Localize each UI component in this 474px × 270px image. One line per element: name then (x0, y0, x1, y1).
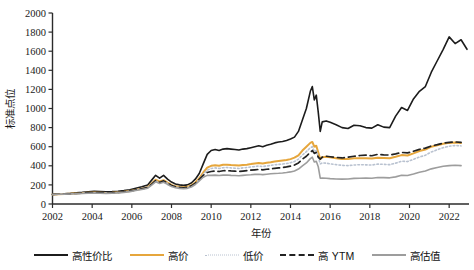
x-tick-label: 2006 (121, 211, 142, 222)
y-tick-label: 0 (41, 199, 46, 210)
legend-swatch-icon (205, 250, 239, 260)
legend-item-1[interactable]: 高价 (130, 248, 188, 263)
y-tick-label: 2000 (25, 8, 46, 19)
legend-line (372, 254, 406, 256)
x-tick-label: 2012 (240, 211, 261, 222)
y-tick-label: 1000 (25, 103, 46, 114)
x-tick-label: 2004 (82, 211, 104, 222)
series-line-1 (53, 142, 462, 195)
legend-item-4[interactable]: 高估值 (372, 248, 441, 263)
x-tick-label: 2002 (42, 211, 63, 222)
x-tick-label: 2008 (161, 211, 182, 222)
legend-item-2[interactable]: 低价 (205, 248, 263, 263)
x-tick-label: 2014 (280, 211, 302, 222)
x-tick-label: 2010 (201, 211, 222, 222)
y-axis-title: 标准点位 (4, 88, 16, 129)
legend-swatch-icon (280, 250, 314, 260)
x-tick-label: 2020 (399, 211, 420, 222)
legend-label: 低价 (243, 248, 263, 263)
chart-plot-area: 0200400600800100012001400160018002000200… (0, 0, 474, 270)
x-tick-label: 2016 (320, 211, 341, 222)
y-tick-label: 800 (30, 122, 46, 133)
y-tick-label: 1400 (25, 65, 46, 76)
series-line-3 (53, 142, 462, 195)
y-tick-label: 1600 (25, 46, 46, 57)
legend-line (280, 254, 314, 256)
legend-line (34, 254, 68, 256)
y-tick-label: 1800 (25, 27, 46, 38)
y-tick-label: 600 (30, 141, 46, 152)
legend-label: 高估值 (410, 248, 441, 263)
x-tick-label: 2022 (439, 211, 460, 222)
legend-swatch-icon (130, 250, 164, 260)
series-line-0 (53, 37, 468, 195)
chart-figure: 0200400600800100012001400160018002000200… (0, 0, 474, 270)
legend-label: 高 YTM (318, 248, 354, 263)
x-tick-label: 2018 (359, 211, 380, 222)
legend-line (205, 255, 239, 256)
legend-swatch-icon (372, 250, 406, 260)
chart-legend: 高性价比高价低价高 YTM高估值 (0, 243, 474, 267)
x-axis-title: 年份 (251, 227, 272, 239)
legend-label: 高性价比 (72, 248, 113, 263)
y-tick-label: 400 (30, 160, 46, 171)
y-tick-label: 200 (30, 180, 46, 191)
y-tick-label: 1200 (25, 84, 46, 95)
legend-swatch-icon (34, 250, 68, 260)
legend-label: 高价 (168, 248, 188, 263)
legend-item-0[interactable]: 高性价比 (34, 248, 113, 263)
legend-item-3[interactable]: 高 YTM (280, 248, 354, 263)
legend-line (130, 254, 164, 256)
